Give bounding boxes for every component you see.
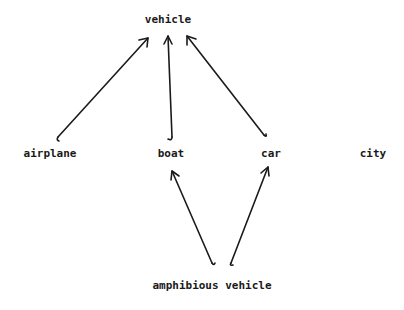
edge-amphibious-to-car <box>230 167 269 265</box>
node-car: car <box>261 147 281 160</box>
node-airplane: airplane <box>24 147 77 160</box>
node-boat: boat <box>158 147 185 160</box>
edge-boat-to-vehicle <box>164 36 172 140</box>
edge-amphibious-to-boat <box>171 171 215 265</box>
edge-car-to-vehicle <box>187 36 266 136</box>
edge-airplane-to-vehicle <box>57 38 148 141</box>
node-vehicle: vehicle <box>145 13 191 26</box>
node-amphibious-vehicle: amphibious vehicle <box>152 279 271 292</box>
node-city: city <box>360 147 387 160</box>
